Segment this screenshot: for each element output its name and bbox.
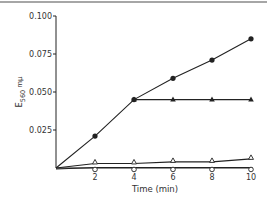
series-filled-circles xyxy=(56,36,254,168)
chart: 0.0250.0500.0750.100246810 Time (min) E5… xyxy=(0,0,267,201)
data-point-filled-circle xyxy=(170,76,175,81)
data-point-open-triangle xyxy=(210,158,215,163)
x-tick-label: 2 xyxy=(92,173,97,182)
data-point-open-circle xyxy=(132,167,137,172)
x-tick-label: 4 xyxy=(131,173,136,182)
data-point-open-triangle xyxy=(249,155,254,160)
series-filled-triangles xyxy=(131,97,254,102)
data-point-open-circle xyxy=(93,167,98,172)
data-point-open-triangle xyxy=(171,158,176,163)
y-tick-label: 0.050 xyxy=(29,88,52,97)
data-point-filled-circle xyxy=(248,36,253,41)
data-point-open-circle xyxy=(210,167,215,172)
y-tick-label: 0.075 xyxy=(29,50,52,59)
series-open-triangles xyxy=(56,155,254,168)
y-tick-label: 0.025 xyxy=(29,126,52,135)
y-axis-title-unit: mμ xyxy=(16,76,24,88)
data-point-filled-circle xyxy=(209,57,214,62)
y-axis-title: E560mμ xyxy=(14,76,27,108)
data-point-open-circle xyxy=(171,167,176,172)
y-tick-label: 0.100 xyxy=(29,12,52,21)
data-point-open-circle xyxy=(249,167,254,172)
plot-series xyxy=(56,36,254,172)
data-point-open-triangle xyxy=(93,159,98,164)
x-axis-title: Time (min) xyxy=(131,184,178,194)
svg-text:E560mμ: E560mμ xyxy=(14,76,27,108)
series-line xyxy=(56,39,251,168)
data-point-filled-circle xyxy=(92,133,97,138)
data-point-open-triangle xyxy=(132,159,137,164)
y-axis-title-subscript: 560 xyxy=(19,90,27,102)
x-tick-label: 8 xyxy=(209,173,214,182)
x-tick-label: 6 xyxy=(170,173,175,182)
axes: 0.0250.0500.0750.100246810 xyxy=(29,12,256,182)
series-open-circles xyxy=(56,167,253,172)
series-line xyxy=(56,159,251,168)
x-tick-label: 10 xyxy=(246,173,256,182)
